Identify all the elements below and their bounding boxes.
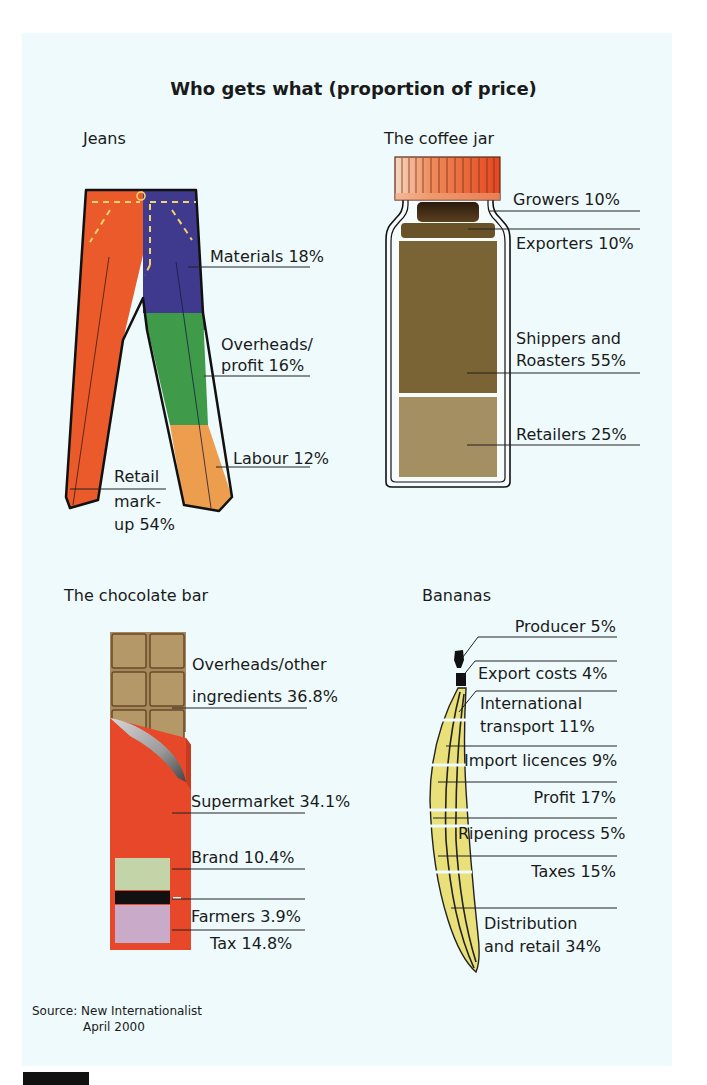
choc-overheads-label-line1: Overheads/other xyxy=(192,654,327,675)
source-publication: New Internationalist xyxy=(81,1004,202,1018)
jeans-materials-label: Materials 18% xyxy=(210,246,324,267)
banana-distribution-label-line2: and retail 34% xyxy=(484,936,601,957)
source-label: Source: xyxy=(32,1004,77,1018)
chocolate-heading: The chocolate bar xyxy=(64,586,208,605)
choc-overheads-label-line2: ingredients 36.8% xyxy=(192,686,338,707)
coffee-heading: The coffee jar xyxy=(384,129,494,148)
bananas-heading: Bananas xyxy=(422,586,491,605)
banana-distribution-label-line1: Distribution xyxy=(484,913,577,934)
coffee-shippers-label-line2: Roasters 55% xyxy=(516,350,626,371)
jeans-labour-label: Labour 12% xyxy=(233,448,329,469)
choc-tax-label: Tax 14.8% xyxy=(210,933,292,954)
banana-transport-label-line2: transport 11% xyxy=(480,716,595,737)
jeans-retail-label-line1: Retail xyxy=(114,466,159,487)
jeans-overheads-label-line2: profit 16% xyxy=(221,355,304,376)
coffee-exporters-label: Exporters 10% xyxy=(516,233,634,254)
choc-supermarket-label: Supermarket 34.1% xyxy=(191,791,350,812)
banana-profit-label: Profit 17% xyxy=(534,787,616,808)
source-note: Source: New Internationalist April 2000 xyxy=(32,1003,202,1035)
coffee-shippers-label-line1: Shippers and xyxy=(516,328,621,349)
choc-brand-label: Brand 10.4% xyxy=(191,847,295,868)
infographic-graphics xyxy=(0,0,707,1085)
banana-import-label: Import licences 9% xyxy=(464,750,617,771)
banana-export-label: Export costs 4% xyxy=(478,663,607,684)
choc-farmers-label: Farmers 3.9% xyxy=(191,906,301,927)
jeans-heading: Jeans xyxy=(83,129,126,148)
banana-taxes-label: Taxes 15% xyxy=(531,861,616,882)
jeans-retail-label-line3: up 54% xyxy=(114,514,175,535)
source-date: April 2000 xyxy=(32,1019,202,1035)
jeans-overheads-label-line1: Overheads/ xyxy=(221,334,313,355)
banana-transport-label-line1: International xyxy=(480,693,582,714)
materials-segment xyxy=(143,190,203,313)
overheads-segment xyxy=(144,313,208,425)
banana-ripening-label: Ripening process 5% xyxy=(458,823,625,844)
banana-producer-label: Producer 5% xyxy=(515,616,616,637)
coffee-retailers-label: Retailers 25% xyxy=(516,424,627,445)
coffee-growers-label: Growers 10% xyxy=(513,189,620,210)
page-tab-marker xyxy=(23,1072,89,1085)
jeans-retail-label-line2: mark- xyxy=(114,491,161,512)
